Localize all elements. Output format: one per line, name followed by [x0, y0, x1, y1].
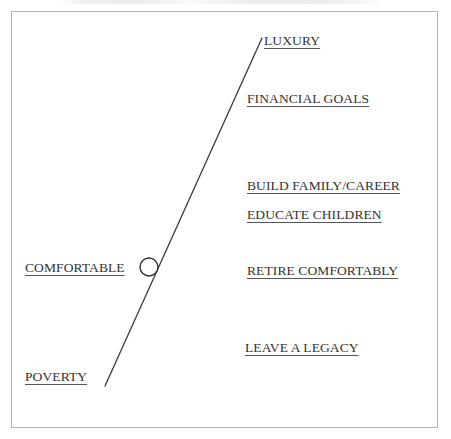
axis-label-poverty: POVERTY	[25, 370, 87, 384]
goal-label-financial-goals: FINANCIAL GOALS	[247, 92, 369, 106]
clipped-header-text-artifact	[60, 0, 380, 4]
goal-label-educate-children: EDUCATE CHILDREN	[247, 208, 382, 222]
goal-label-retire-comfortably: RETIRE COMFORTABLY	[247, 264, 398, 278]
diagram-canvas: COMFORTABLE POVERTY LUXURY FINANCIAL GOA…	[0, 0, 451, 439]
goal-label-build-family-career: BUILD FAMILY/CAREER	[247, 179, 400, 193]
axis-label-comfortable: COMFORTABLE	[25, 261, 125, 275]
axis-label-luxury: LUXURY	[264, 34, 320, 48]
goal-label-leave-a-legacy: LEAVE A LEGACY	[245, 341, 359, 355]
